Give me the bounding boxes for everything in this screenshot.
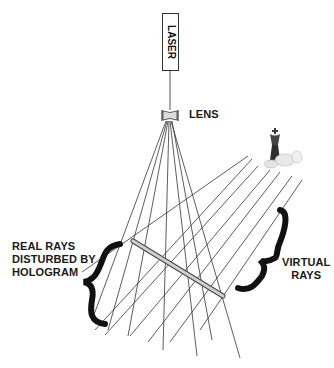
real-rays-label: REAL RAYS DISTURBED BY HOLOGRAM [12,240,96,279]
hologram-diagram: LASER LENS REAL RAYS DISTURBED BY HOLOGR… [0,0,334,368]
hologram-plate [133,241,223,296]
real-rays-line-1: REAL RAYS [12,240,96,253]
real-rays-line-2: DISTURBED BY [12,253,96,266]
real-rays-line-3: HOLOGRAM [12,266,96,279]
laser-label: LASER [165,25,176,59]
virtual-rays-line-1: VIRTUAL [282,256,330,269]
right-brace [238,210,285,289]
laser-rays [92,121,240,358]
laser-device: LASER [162,13,179,71]
lens-label: LENS [189,108,219,121]
chess-object-icon [264,128,302,168]
virtual-rays-label: VIRTUAL RAYS [282,256,330,282]
lens-icon [162,110,178,121]
virtual-rays-line-2: RAYS [282,269,330,282]
